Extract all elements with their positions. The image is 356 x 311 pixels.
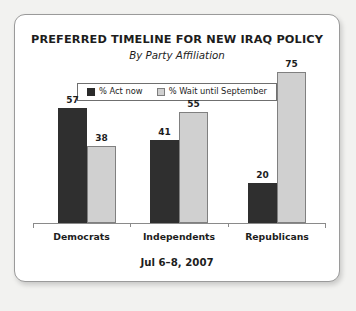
- bar-independents-wait-until-september[interactable]: 55: [179, 112, 208, 223]
- bar-value-independents-wait-until-september: 55: [187, 99, 200, 109]
- plot-area: 57 38 Democrats 41 55 Independents: [15, 15, 341, 283]
- bar-value-republicans-act-now: 20: [256, 170, 269, 180]
- category-label-democrats: Democrats: [53, 231, 109, 242]
- bar-republicans-wait-until-september[interactable]: 75: [277, 72, 306, 223]
- x-axis-line: [33, 223, 326, 224]
- axis-end-cap-left: [33, 223, 34, 228]
- axis-tick-2: [228, 223, 229, 227]
- bar-value-democrats-wait-until-september: 38: [95, 133, 108, 143]
- bar-value-democrats-act-now: 57: [66, 95, 79, 105]
- bar-pair-republicans: 20 75: [248, 15, 306, 223]
- chart-card: PREFERRED TIMELINE FOR NEW IRAQ POLICY B…: [14, 14, 340, 282]
- axis-end-cap-right: [325, 223, 326, 228]
- bar-group-independents: 41 55 Independents: [130, 15, 228, 223]
- axis-tick-1: [130, 223, 131, 227]
- bar-democrats-act-now[interactable]: 57: [58, 108, 87, 223]
- bar-republicans-act-now[interactable]: 20: [248, 183, 277, 223]
- category-label-republicans: Republicans: [245, 231, 309, 242]
- bar-group-republicans: 20 75 Republicans: [228, 15, 326, 223]
- bar-value-independents-act-now: 41: [158, 127, 171, 137]
- bar-pair-democrats: 57 38: [58, 15, 116, 223]
- bar-pair-independents: 41 55: [150, 15, 208, 223]
- bar-democrats-wait-until-september[interactable]: 38: [87, 146, 116, 223]
- bar-value-republicans-wait-until-september: 75: [285, 59, 298, 69]
- category-label-independents: Independents: [143, 231, 215, 242]
- bar-independents-act-now[interactable]: 41: [150, 140, 179, 223]
- survey-date-note: Jul 6–8, 2007: [15, 257, 339, 268]
- bar-group-democrats: 57 38 Democrats: [33, 15, 130, 223]
